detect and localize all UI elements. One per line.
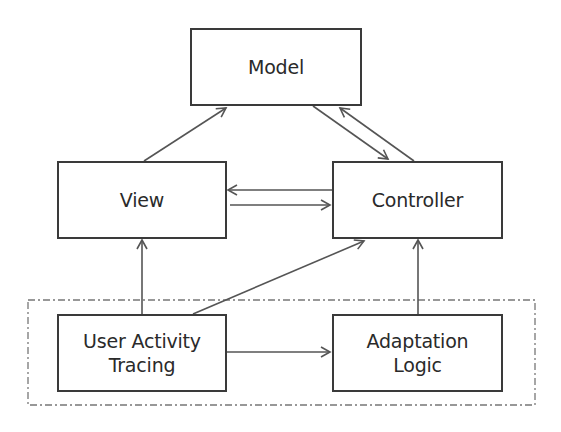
arrow-view-to-model — [144, 108, 226, 161]
arrow-tracing-to-controller — [193, 241, 364, 314]
node-adaptation-logic-label: Adaptation Logic — [367, 329, 469, 377]
node-adaptation-logic: Adaptation Logic — [332, 314, 503, 392]
node-user-activity-tracing-label: User Activity Tracing — [83, 329, 201, 377]
arrow-controller-to-model — [340, 108, 414, 161]
arrow-model-to-controller — [313, 106, 388, 159]
diagram-canvas: Model View Controller User Activity Trac… — [0, 0, 561, 432]
node-model: Model — [190, 28, 362, 106]
node-controller: Controller — [332, 161, 503, 239]
node-controller-label: Controller — [372, 188, 463, 212]
node-view-label: View — [120, 188, 164, 212]
node-model-label: Model — [248, 55, 304, 79]
node-view: View — [57, 161, 227, 239]
node-user-activity-tracing: User Activity Tracing — [57, 314, 227, 392]
